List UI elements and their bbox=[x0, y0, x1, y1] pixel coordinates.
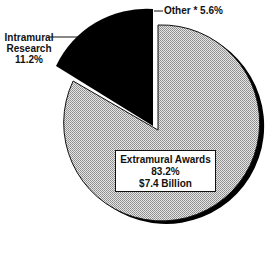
intramural-label: Intramural Research 11.2% bbox=[4, 32, 54, 65]
extramural-amount: $7.4 Billion bbox=[116, 178, 215, 190]
intramural-label-line2: Research bbox=[4, 43, 54, 54]
other-label: Other * 5.6% bbox=[164, 5, 223, 16]
intramural-label-pct: 11.2% bbox=[4, 54, 54, 65]
intramural-label-line1: Intramural bbox=[4, 32, 54, 43]
extramural-pct: 83.2% bbox=[116, 166, 215, 178]
extramural-label-box: Extramural Awards 83.2% $7.4 Billion bbox=[115, 150, 216, 192]
extramural-title: Extramural Awards bbox=[116, 154, 215, 166]
